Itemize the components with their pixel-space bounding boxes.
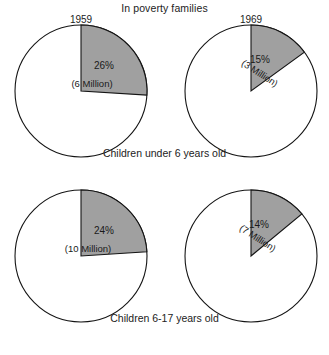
wedge-value-label: (6 Million) <box>71 78 112 89</box>
wedge-percent-label: 26% <box>94 60 114 71</box>
pie-1959-under6: 26%(6 Million) <box>15 25 147 157</box>
column-header-1969: 1969 <box>231 14 271 25</box>
pie-1969-6to17: 14%(7 Million) <box>185 190 317 322</box>
pies-canvas: 26%(6 Million)15%(3 Million)24%(10 Milli… <box>0 0 329 355</box>
row-caption-6-to-17: Children 6-17 years old <box>0 312 329 324</box>
pie-1959-6to17: 24%(10 Million) <box>15 190 147 322</box>
wedge-percent-label: 24% <box>94 225 114 236</box>
pie-chart-figure: In poverty families 1959 1969 26%(6 Mill… <box>0 0 329 355</box>
chart-title: In poverty families <box>0 2 329 14</box>
pie-1969-under6: 15%(3 Million) <box>185 25 317 157</box>
column-header-1959: 1959 <box>61 14 101 25</box>
row-caption-under-6: Children under 6 years old <box>0 147 329 159</box>
wedge-value-label: (10 Million) <box>65 243 111 254</box>
